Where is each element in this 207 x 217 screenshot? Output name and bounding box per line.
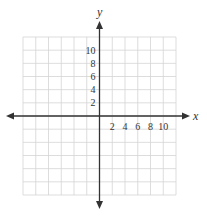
y-tick-label: 2 (91, 97, 96, 108)
x-tick-label: 10 (158, 121, 168, 132)
y-tick-label: 10 (86, 45, 96, 56)
y-tick-label: 6 (91, 71, 96, 82)
y-tick-label: 8 (91, 58, 96, 69)
x-tick-label: 4 (123, 121, 128, 132)
x-tick-label: 8 (148, 121, 153, 132)
y-axis-down-arrow-icon (96, 201, 103, 209)
y-axis-up-arrow-icon (96, 21, 103, 29)
y-axis-label: y (96, 5, 103, 19)
x-axis-right-arrow-icon (182, 113, 190, 120)
x-tick-label: 2 (110, 121, 115, 132)
x-axis-left-arrow-icon (6, 113, 14, 120)
coordinate-plane: 246810 246810 x y (0, 0, 207, 217)
x-axis-label: x (192, 109, 199, 123)
x-tick-labels: 246810 (110, 121, 169, 132)
x-tick-label: 6 (135, 121, 140, 132)
y-tick-label: 4 (91, 84, 96, 95)
axes (6, 21, 190, 209)
